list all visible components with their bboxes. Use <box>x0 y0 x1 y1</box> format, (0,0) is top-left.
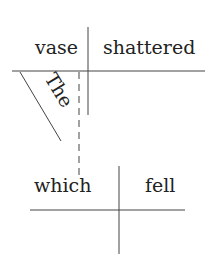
modifier-word: The <box>41 69 78 111</box>
main-subject-word: vase <box>34 36 78 58</box>
relative-subject-word: which <box>34 174 91 196</box>
main-verb-word: shattered <box>103 36 195 58</box>
sentence-diagram: vase shattered The which fell <box>0 0 219 272</box>
relative-verb-word: fell <box>145 174 175 196</box>
